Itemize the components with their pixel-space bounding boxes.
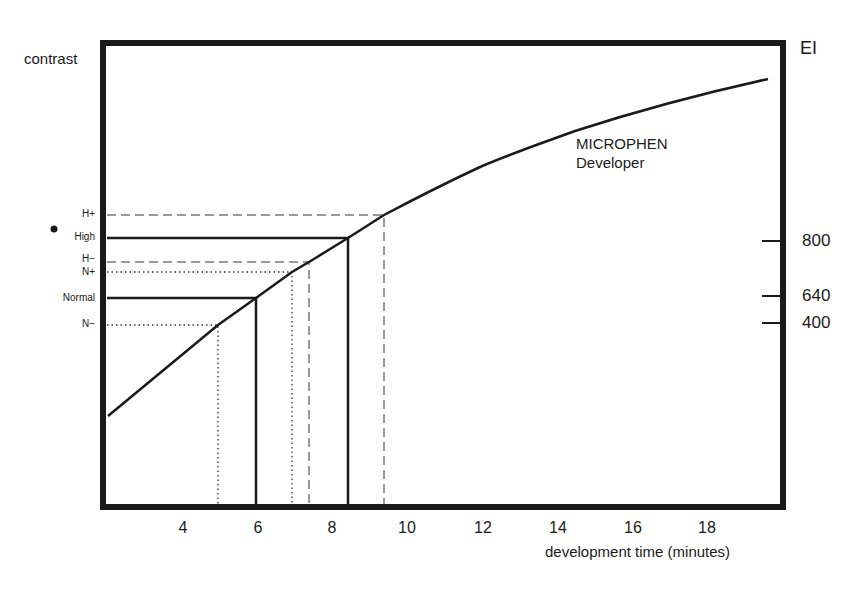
- y-axis-label: contrast: [24, 50, 77, 67]
- x-tick-4: 4: [163, 519, 203, 537]
- plot-frame: [103, 43, 783, 507]
- x-axis-label: development time (minutes): [545, 543, 730, 560]
- developer-curve: [108, 79, 768, 416]
- x-tick-8: 8: [312, 519, 352, 537]
- x-tick-10: 10: [387, 519, 427, 537]
- level-label-normal: Normal: [15, 292, 95, 303]
- level-label-hplus: H+: [15, 208, 95, 219]
- high-guide: [107, 238, 348, 504]
- level-label-nplus: N+: [15, 266, 95, 277]
- hplus-guide: [107, 215, 384, 504]
- ei-ticks: [762, 241, 781, 323]
- level-label-hminus: H−: [15, 253, 95, 264]
- nminus-guide: [107, 325, 218, 504]
- level-label-nminus: N−: [15, 318, 95, 329]
- chart-title-line2: Developer: [576, 153, 644, 172]
- x-tick-16: 16: [613, 519, 653, 537]
- chart-canvas: [0, 0, 868, 591]
- y2-axis-label: EI: [800, 38, 817, 59]
- ei-label-400: 400: [802, 313, 830, 333]
- x-tick-14: 14: [538, 519, 578, 537]
- level-label-high: High: [15, 231, 95, 242]
- ei-label-640: 640: [802, 286, 830, 306]
- chart-title-line1: MICROPHEN: [576, 134, 668, 153]
- ei-label-800: 800: [802, 231, 830, 251]
- x-tick-12: 12: [463, 519, 503, 537]
- x-tick-6: 6: [238, 519, 278, 537]
- normal-guide: [107, 298, 256, 504]
- x-tick-18: 18: [687, 519, 727, 537]
- nplus-guide: [107, 272, 292, 504]
